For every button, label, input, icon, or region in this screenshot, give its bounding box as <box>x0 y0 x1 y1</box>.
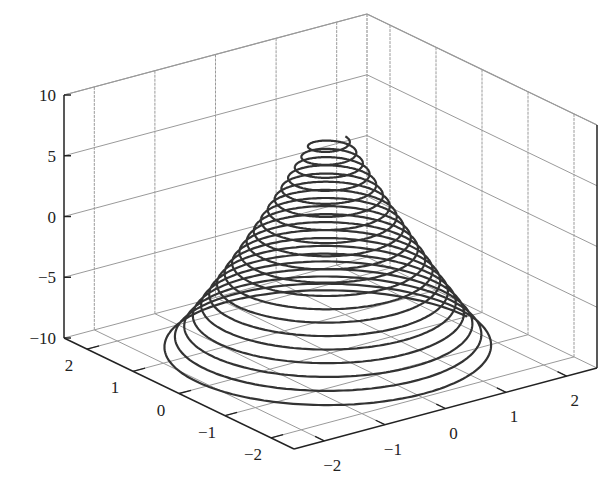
z-tick-label: −10 <box>29 329 56 348</box>
y-tick-label: −1 <box>198 423 216 442</box>
z-tick-label: 10 <box>39 86 56 105</box>
x-tick-label: −1 <box>384 440 402 459</box>
y-tick-label: −2 <box>244 445 262 464</box>
x-tick-label: 1 <box>510 407 519 426</box>
y-tick-label: 1 <box>111 378 120 397</box>
z-tick-label: 5 <box>48 147 57 166</box>
x-tick-label: 2 <box>570 391 579 410</box>
y-tick-label: 0 <box>157 401 166 420</box>
z-tick-label: −5 <box>38 268 56 287</box>
y-tick-label: 2 <box>65 356 74 375</box>
tick-labels: −10−50510−2−1012−2−1012 <box>29 86 579 475</box>
plot-area: −10−50510−2−1012−2−1012 <box>0 0 610 487</box>
chart-3d-helix: −10−50510−2−1012−2−1012 <box>0 0 610 487</box>
z-tick-label: 0 <box>48 208 57 227</box>
x-tick-label: −2 <box>323 456 341 475</box>
x-tick-label: 0 <box>449 424 458 443</box>
